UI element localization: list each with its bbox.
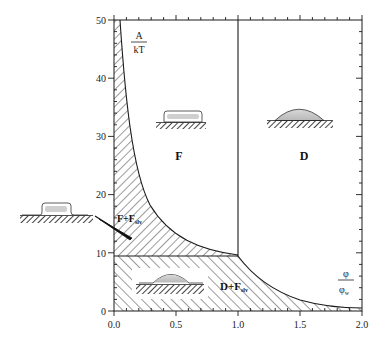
x-axis-label: φ φw bbox=[338, 268, 354, 296]
y-label-denominator: kT bbox=[133, 44, 144, 55]
x-tick-0-5: 0.5 bbox=[170, 319, 183, 330]
y-tick-50: 50 bbox=[96, 15, 106, 26]
film-inset-f-fslv bbox=[20, 203, 93, 223]
x-tick-1-0: 1.0 bbox=[232, 319, 245, 330]
x-tick-2-0: 2.0 bbox=[356, 319, 369, 330]
y-tick-20: 20 bbox=[96, 189, 106, 200]
x-tick-0-0: 0.0 bbox=[108, 319, 121, 330]
region-label-f: F bbox=[175, 149, 182, 163]
phase-diagram: 50 40 30 20 10 0 0.0 0.5 1.0 1.5 2.0 A k… bbox=[0, 0, 385, 339]
droplet-inset-d bbox=[267, 109, 333, 128]
x-label-numerator: φ bbox=[343, 268, 349, 279]
y-tick-30: 30 bbox=[96, 131, 106, 142]
x-label-denominator: φw bbox=[339, 284, 350, 296]
x-tick-1-5: 1.5 bbox=[294, 319, 307, 330]
x-axis-ticks-top bbox=[114, 15, 362, 20]
y-axis-ticks-right bbox=[356, 32, 362, 300]
film-inset-f bbox=[156, 111, 206, 129]
region-label-d: D bbox=[300, 149, 309, 163]
y-tick-0: 0 bbox=[101, 306, 106, 317]
y-tick-10: 10 bbox=[96, 248, 106, 259]
y-tick-40: 40 bbox=[96, 73, 106, 84]
y-label-numerator: A bbox=[135, 30, 143, 41]
droplet-inset-d-fslv bbox=[132, 268, 208, 299]
y-axis-label: A kT bbox=[131, 30, 147, 55]
